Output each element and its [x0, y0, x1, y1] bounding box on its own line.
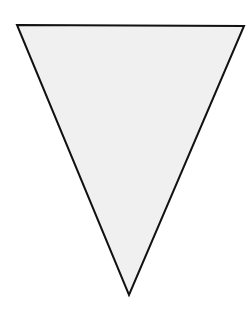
inverted-triangle-shape	[17, 25, 244, 295]
diagram-canvas	[0, 0, 247, 318]
triangle-diagram	[0, 0, 247, 318]
